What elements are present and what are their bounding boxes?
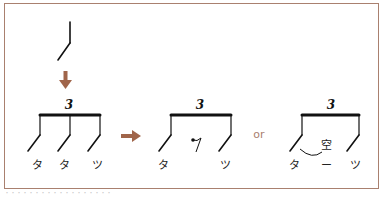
caption-text: ・・・・・・・・・・・・・・・・・・ xyxy=(4,190,112,196)
tuplet-number-1: 3 xyxy=(65,99,73,111)
tuplet-number-3: 3 xyxy=(327,99,335,111)
syllable-tsu: ツ xyxy=(350,160,361,171)
syllable-ta: タ xyxy=(158,160,169,171)
tuplet-number-2: 3 xyxy=(196,99,204,111)
rest-annotation: 空 xyxy=(321,140,332,151)
syllable-tsu: ツ xyxy=(220,160,231,171)
eighth-rest-icon xyxy=(191,138,201,152)
tie-arc xyxy=(300,149,322,155)
triplet-group-1 xyxy=(28,115,100,151)
syllable-dash: ー xyxy=(321,160,332,171)
or-label: or xyxy=(253,129,264,140)
single-note-figure xyxy=(58,22,70,60)
syllable-ta: タ xyxy=(59,160,70,171)
syllable-ta: タ xyxy=(289,160,300,171)
syllable-ta: タ xyxy=(32,160,43,171)
syllable-tsu: ツ xyxy=(92,160,103,171)
down-arrow-icon xyxy=(59,71,72,89)
triplet-group-2 xyxy=(159,115,231,151)
right-arrow-icon xyxy=(121,130,141,142)
